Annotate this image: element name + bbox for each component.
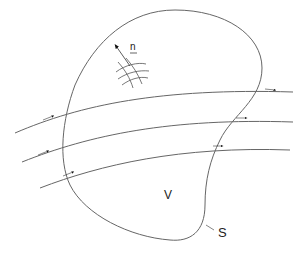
- surface-label: S: [218, 225, 227, 240]
- arrow-icon: [265, 89, 275, 90]
- normal-label: n: [130, 41, 136, 52]
- control-volume-diagram: n V S: [0, 0, 303, 255]
- surface-outline: [63, 10, 262, 240]
- normal-vector-arrow: [116, 46, 130, 66]
- arrow-icon: [63, 172, 73, 176]
- streamline-3: [40, 146, 290, 188]
- volume-label: V: [164, 188, 172, 202]
- streamline-1: [15, 89, 293, 133]
- surface-element-icon: [116, 58, 149, 88]
- surface-leader-line: [206, 225, 214, 230]
